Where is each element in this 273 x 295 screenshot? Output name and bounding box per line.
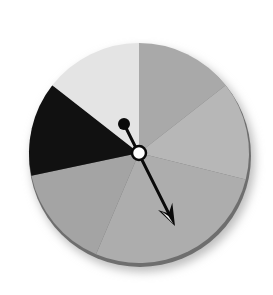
spinner-figure (0, 0, 273, 295)
arrow-tail-ball-icon (118, 118, 130, 130)
spinner-pivot-icon (132, 146, 146, 160)
